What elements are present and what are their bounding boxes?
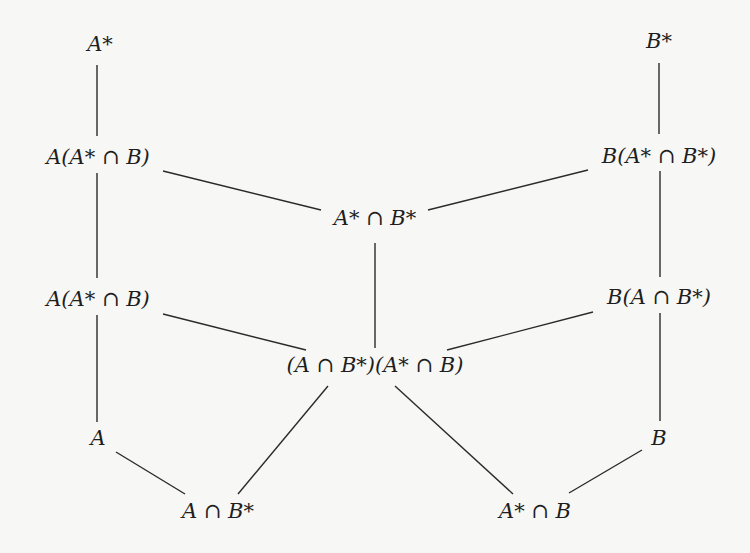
edge-A-ABstar xyxy=(116,452,185,494)
edge-B_ABstar-middle xyxy=(447,312,593,350)
diagram-edges xyxy=(0,0,750,553)
node-a-astar-cap-b-upper: A(A* ∩ B) xyxy=(46,145,150,169)
edge-middle-AstarB xyxy=(395,386,513,494)
edge-middle-ABstar xyxy=(238,386,328,494)
node-middle-product: (A ∩ B*)(A* ∩ B) xyxy=(287,353,464,377)
node-b-star: B* xyxy=(646,29,672,53)
edge-B-AstarB xyxy=(569,450,642,493)
node-a-cap-bstar: A ∩ B* xyxy=(182,499,254,523)
hasse-diagram: A* B* A(A* ∩ B) B(A* ∩ B*) A* ∩ B* A(A* … xyxy=(0,0,750,553)
node-a-star: A* xyxy=(87,32,113,56)
edge-B_AstarBstar-AstarBstar xyxy=(428,170,588,210)
node-b-astar-cap-bstar: B(A* ∩ B*) xyxy=(602,144,716,168)
node-a-astar-cap-b-lower: A(A* ∩ B) xyxy=(46,287,150,311)
edge-A_AstarB_2-middle xyxy=(163,314,306,350)
node-b-a-cap-bstar: B(A ∩ B*) xyxy=(607,285,711,309)
node-astar-cap-bstar: A* ∩ B* xyxy=(334,206,417,230)
edge-A_AstarB-AstarBstar xyxy=(163,171,321,210)
node-a: A xyxy=(90,426,105,450)
node-astar-cap-b: A* ∩ B xyxy=(499,499,571,523)
node-b: B xyxy=(651,426,666,450)
